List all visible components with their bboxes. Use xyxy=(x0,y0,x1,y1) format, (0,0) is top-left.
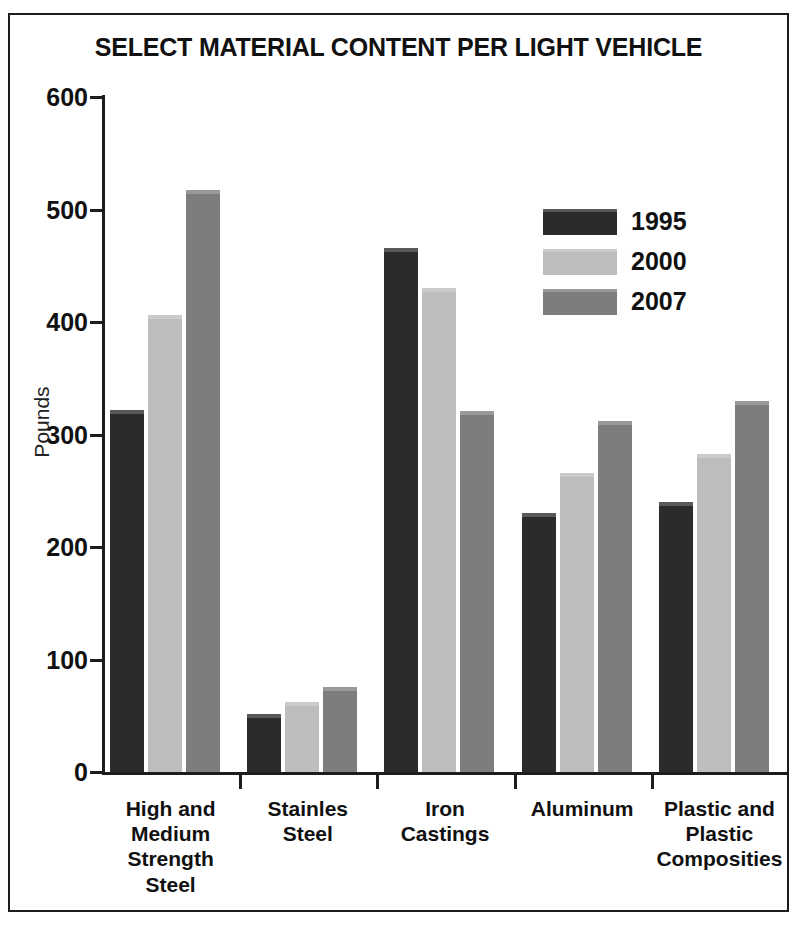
legend-item-2007[interactable]: 2007 xyxy=(543,287,687,316)
y-axis-tick-label: 500 xyxy=(16,195,88,224)
bar-2000-1[interactable] xyxy=(148,315,182,772)
x-axis-category-label: Plastic andPlasticComposities xyxy=(651,796,788,872)
category-label-line: Stainles xyxy=(239,796,376,821)
legend-label-1995: 1995 xyxy=(631,207,687,236)
bar-group xyxy=(659,97,796,772)
legend-swatch-2007 xyxy=(543,289,617,315)
plot-area xyxy=(102,97,790,772)
category-label-line: Steel xyxy=(102,872,239,897)
category-label-line: Composities xyxy=(651,846,788,871)
legend-item-1995[interactable]: 1995 xyxy=(543,207,687,236)
x-axis-category-label: IronCastings xyxy=(376,796,513,846)
category-label-line: Aluminum xyxy=(514,796,651,821)
legend-swatch-1995 xyxy=(543,209,617,235)
y-axis-tick-label: 400 xyxy=(16,308,88,337)
legend-item-2000[interactable]: 2000 xyxy=(543,247,687,276)
bar-1995-3[interactable] xyxy=(384,248,418,772)
bar-1995-1[interactable] xyxy=(110,410,144,772)
x-axis-category-label: High andMediumStrengthSteel xyxy=(102,796,239,897)
bar-1995-2[interactable] xyxy=(247,714,281,773)
x-axis-line xyxy=(102,772,788,775)
x-axis-category-label: Aluminum xyxy=(514,796,651,821)
category-label-line: Steel xyxy=(239,821,376,846)
category-label-line: Medium xyxy=(102,821,239,846)
bar-2000-3[interactable] xyxy=(422,288,456,772)
bar-1995-5[interactable] xyxy=(659,502,693,772)
bar-2007-2[interactable] xyxy=(323,687,357,773)
bar-2007-3[interactable] xyxy=(460,411,494,772)
bar-group xyxy=(247,97,384,772)
bar-2007-5[interactable] xyxy=(735,401,769,772)
category-label-line: Iron xyxy=(376,796,513,821)
bar-group xyxy=(384,97,521,772)
category-label-line: High and xyxy=(102,796,239,821)
bar-2000-4[interactable] xyxy=(560,473,594,772)
category-label-line: Strength xyxy=(102,846,239,871)
bar-2000-5[interactable] xyxy=(697,454,731,772)
legend-swatch-2000 xyxy=(543,249,617,275)
bar-group xyxy=(522,97,659,772)
x-axis-separator-tick xyxy=(651,772,654,789)
bar-1995-4[interactable] xyxy=(522,513,556,772)
y-axis-title: Pounds xyxy=(30,342,54,502)
bar-2000-2[interactable] xyxy=(285,702,319,772)
category-label-line: Plastic xyxy=(651,821,788,846)
legend-label-2007: 2007 xyxy=(631,287,687,316)
x-axis-separator-tick xyxy=(239,772,242,789)
y-axis-tick-label: 0 xyxy=(16,758,88,787)
category-label-line: Castings xyxy=(376,821,513,846)
bar-2007-4[interactable] xyxy=(598,421,632,772)
y-axis-tick-label: 100 xyxy=(16,645,88,674)
bar-group xyxy=(110,97,247,772)
bar-2007-1[interactable] xyxy=(186,190,220,772)
x-axis-separator-tick xyxy=(514,772,517,789)
x-axis-separator-tick xyxy=(376,772,379,789)
y-axis-tick-label: 200 xyxy=(16,533,88,562)
x-axis-category-label: StainlesSteel xyxy=(239,796,376,846)
chart-legend: 199520002007 xyxy=(543,207,687,327)
chart-frame: SELECT MATERIAL CONTENT PER LIGHT VEHICL… xyxy=(8,13,789,912)
y-axis-tick-label: 600 xyxy=(16,83,88,112)
chart-title: SELECT MATERIAL CONTENT PER LIGHT VEHICL… xyxy=(10,33,787,62)
category-label-line: Plastic and xyxy=(651,796,788,821)
legend-label-2000: 2000 xyxy=(631,247,687,276)
